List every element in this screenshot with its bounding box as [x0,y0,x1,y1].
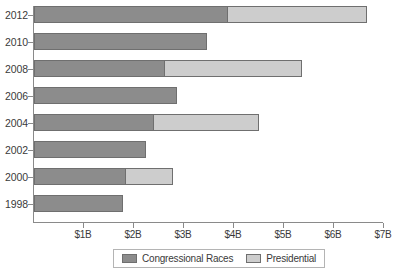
bar-segment-congressional-races[interactable] [34,195,123,212]
legend-label-presidential: Presidential [266,253,316,264]
bar-segment-presidential[interactable] [154,114,259,131]
y-axis-category-label: 2012 [0,9,28,21]
bar-row[interactable] [34,60,302,77]
bar-segment-congressional-races[interactable] [34,6,228,23]
y-axis-tick [28,150,33,151]
bar-segment-congressional-races[interactable] [34,33,207,50]
y-axis-tick [28,42,33,43]
bar-row[interactable] [34,6,367,23]
bar-row[interactable] [34,195,123,212]
legend-item-presidential[interactable]: Presidential [246,253,316,264]
light-gray-swatch-icon [246,254,261,263]
bar-segment-presidential[interactable] [126,168,173,185]
bar-row[interactable] [34,168,173,185]
bar-segment-congressional-races[interactable] [34,168,126,185]
legend-item-congressional[interactable]: Congressional Races [122,253,233,264]
x-axis-tick-label: $1B [74,229,91,240]
y-axis-tick [28,204,33,205]
y-axis-tick [28,69,33,70]
chart-legend: Congressional Races Presidential [113,249,325,268]
bar-segment-presidential[interactable] [165,60,302,77]
dark-gray-swatch-icon [122,254,137,263]
legend-label-congressional: Congressional Races [142,253,233,264]
bar-segment-congressional-races[interactable] [34,141,146,158]
y-axis-category-label: 2002 [0,144,28,156]
bar-row[interactable] [34,87,177,104]
x-axis-tick [333,223,334,228]
x-axis-tick [133,223,134,228]
bar-segment-congressional-races[interactable] [34,114,154,131]
bar-segment-congressional-races[interactable] [34,60,165,77]
y-axis-category-label: 1998 [0,198,28,210]
x-axis-tick [283,223,284,228]
bar-chart: 20122010200820062004200220001998 $1B$2B$… [0,0,413,273]
y-axis-tick [28,123,33,124]
y-axis-category-label: 2010 [0,36,28,48]
x-axis-tick-label: $4B [224,229,241,240]
bar-segment-congressional-races[interactable] [34,87,177,104]
y-axis-tick [28,15,33,16]
bar-row[interactable] [34,114,259,131]
y-axis-tick [28,96,33,97]
y-axis-tick [28,177,33,178]
x-axis-tick [233,223,234,228]
x-axis-tick-label: $7B [374,229,391,240]
x-axis-line [33,222,383,223]
y-axis-category-label: 2006 [0,90,28,102]
x-axis-tick [183,223,184,228]
bar-row[interactable] [34,33,207,50]
x-axis-tick-label: $3B [174,229,191,240]
x-axis-tick [383,223,384,228]
bar-row[interactable] [34,141,146,158]
bar-segment-presidential[interactable] [228,6,367,23]
x-axis-tick-label: $5B [274,229,291,240]
x-axis-tick [83,223,84,228]
y-axis-category-label: 2008 [0,63,28,75]
x-axis-tick-label: $6B [324,229,341,240]
y-axis-category-label: 2004 [0,117,28,129]
x-axis-tick-label: $2B [124,229,141,240]
y-axis-category-label: 2000 [0,171,28,183]
